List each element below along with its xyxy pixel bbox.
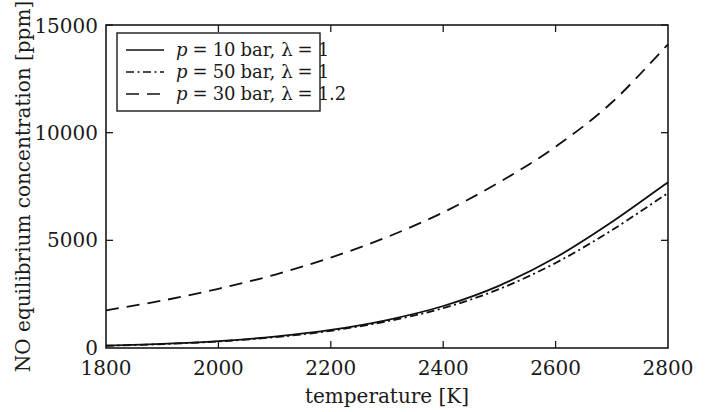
y-axis-title: NO equilibrium concentration [ppm] xyxy=(11,1,35,372)
legend-p-symbol-0: p xyxy=(176,39,188,60)
legend-eq-0: = xyxy=(193,39,208,60)
x-tick-labels: 1800 2000 2200 2400 2600 2800 xyxy=(81,356,694,380)
legend-eq2-0: = xyxy=(298,39,313,60)
legend-unit-2: bar, xyxy=(241,83,276,104)
legend-eq2-2: = xyxy=(298,83,313,104)
x-tick-label-1: 2000 xyxy=(193,356,244,380)
legend-lambda-value-2: 1.2 xyxy=(318,83,347,104)
y-tick-label-3: 15000 xyxy=(34,14,98,38)
legend-lambda-0: λ xyxy=(281,39,292,60)
x-axis-title: temperature [K] xyxy=(305,384,469,408)
legend-unit-0: bar, xyxy=(241,39,276,60)
legend-eq2-1: = xyxy=(298,61,313,82)
x-tick-label-5: 2800 xyxy=(643,356,694,380)
legend-unit-1: bar, xyxy=(241,61,276,82)
legend-pressure-2: 30 xyxy=(213,83,236,104)
legend-eq-1: = xyxy=(193,61,208,82)
legend-lambda-value-0: 1 xyxy=(318,39,329,60)
x-tick-label-3: 2400 xyxy=(418,356,469,380)
y-tick-label-0: 0 xyxy=(85,336,98,360)
x-tick-label-2: 2200 xyxy=(305,356,356,380)
legend-label-1: p=50bar,λ=1 xyxy=(176,61,329,82)
legend-lambda-value-1: 1 xyxy=(318,61,329,82)
legend-p-symbol-2: p xyxy=(176,83,188,104)
legend-lambda-2: λ xyxy=(281,83,292,104)
y-tick-labels: 0 5000 10000 15000 xyxy=(34,14,98,360)
chart-canvas: 1800 2000 2200 2400 2600 2800 0 5000 100… xyxy=(0,0,712,412)
x-tick-label-4: 2600 xyxy=(530,356,581,380)
y-tick-label-1: 5000 xyxy=(47,228,98,252)
legend-pressure-1: 50 xyxy=(213,61,236,82)
y-tick-label-2: 10000 xyxy=(34,121,98,145)
legend-label-0: p=10bar,λ=1 xyxy=(176,39,329,60)
legend-eq-2: = xyxy=(193,83,208,104)
legend-lambda-1: λ xyxy=(281,61,292,82)
legend-label-2: p=30bar,λ=1.2 xyxy=(176,83,346,104)
legend-p-symbol-1: p xyxy=(176,61,188,82)
figure-container: 1800 2000 2200 2400 2600 2800 0 5000 100… xyxy=(0,0,712,412)
legend-pressure-0: 10 xyxy=(213,39,236,60)
legend: p=10bar,λ=1 p=50bar,λ=1 p=30bar,λ=1.2 xyxy=(117,33,346,111)
